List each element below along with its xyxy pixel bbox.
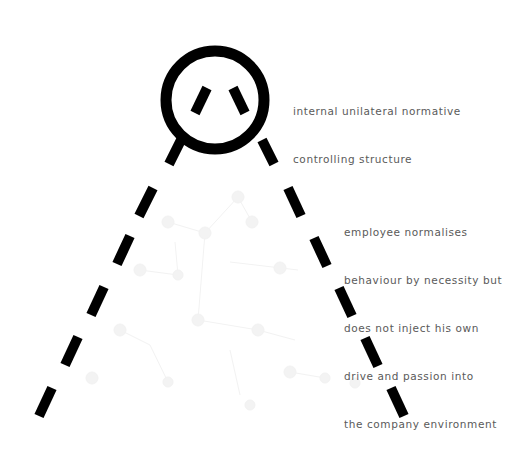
employee-annotation-line-5: the company environment (344, 416, 502, 432)
structure-head-circle (166, 51, 264, 149)
employee-annotation-line-2: behaviour by necessity but (344, 272, 502, 288)
structure-annotation-line-1: internal unilateral normative (293, 103, 461, 119)
right-eye-mark (233, 88, 245, 113)
structure-annotation-line-2: controlling structure (293, 151, 461, 167)
left-dashed-line (39, 140, 181, 416)
employee-annotation-line-4: drive and passion into (344, 368, 502, 384)
left-eye-mark (195, 88, 207, 113)
employee-annotation-line-3: does not inject his own (344, 320, 502, 336)
background-network (86, 191, 360, 410)
employee-annotation: employee normalises behaviour by necessi… (344, 192, 502, 448)
structure-annotation: internal unilateral normative controllin… (293, 71, 461, 183)
employee-annotation-line-1: employee normalises (344, 224, 502, 240)
